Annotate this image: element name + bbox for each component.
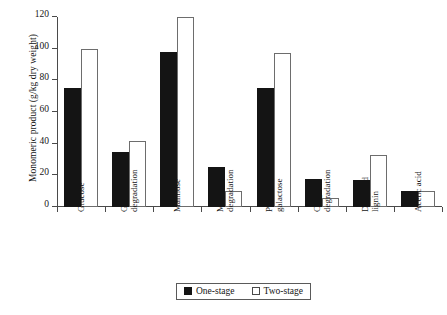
x-axis-category-label: Pentose + xyxy=(264,177,274,212)
bar-chart-figure: Monomeric product (g/kg dry weight) 0204… xyxy=(0,0,447,315)
legend-swatch-filled xyxy=(184,287,192,295)
legend-entry: Two-stage xyxy=(252,286,303,296)
y-axis-tick-label: 20 xyxy=(40,167,50,177)
y-axis-tick-label: 60 xyxy=(40,104,50,114)
x-axis-tick xyxy=(153,207,154,212)
x-axis-tick xyxy=(57,207,58,212)
y-axis-tick-label: 80 xyxy=(40,72,50,82)
chart-legend: One-stageTwo-stage xyxy=(176,283,311,300)
x-axis-category-label: degradation xyxy=(225,170,235,212)
x-axis-tick xyxy=(201,207,202,212)
y-axis-tick-label: 0 xyxy=(44,199,49,209)
x-axis-category-label: degradation xyxy=(322,170,332,212)
legend-entry: One-stage xyxy=(184,286,235,296)
x-axis-category-label: Degraded xyxy=(360,177,370,212)
x-axis-tick xyxy=(298,207,299,212)
x-axis-tick xyxy=(105,207,106,212)
x-axis-category-label: Glucose xyxy=(76,183,86,213)
plot-area: 020406080100120 xyxy=(57,17,442,207)
legend-swatch-hollow xyxy=(252,287,260,295)
x-axis-category-label: galactose xyxy=(274,179,284,212)
x-axis-category-label: degradation xyxy=(129,170,139,212)
x-axis-category-label: Mannose xyxy=(215,179,225,212)
legend-label: One-stage xyxy=(196,286,235,296)
x-axis-tick xyxy=(394,207,395,212)
bar-group xyxy=(57,17,105,207)
x-axis-category-label: CS/gal xyxy=(312,187,322,212)
x-axis-category-label: Glucose xyxy=(119,183,129,213)
x-axis-category-label: lignin xyxy=(370,191,380,212)
x-axis-tick xyxy=(250,207,251,212)
x-axis-tick xyxy=(346,207,347,212)
x-axis-category-label: Acetic acid xyxy=(413,171,423,212)
y-axis-tick-label: 40 xyxy=(40,136,50,146)
y-axis-title: Monomeric product (g/kg dry weight) xyxy=(28,8,38,208)
y-axis-tick-label: 120 xyxy=(35,9,49,19)
x-axis-tick xyxy=(442,207,443,212)
y-axis-tick-label: 100 xyxy=(35,41,49,51)
legend-label: Two-stage xyxy=(264,286,303,296)
x-axis-category-label: Mannose xyxy=(172,179,182,212)
